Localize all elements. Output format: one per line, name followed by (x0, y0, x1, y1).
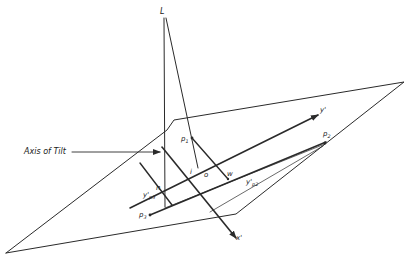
label-p3: p3 (139, 212, 147, 220)
label-y-prime-p3: y'p3 (143, 192, 155, 200)
point-p2 (324, 142, 327, 145)
point-w (227, 178, 229, 180)
point-p1 (191, 137, 194, 140)
tilted-photo-diagram (0, 0, 412, 260)
p1-line (192, 138, 228, 179)
point-p3 (149, 214, 152, 217)
principal-ray (166, 18, 198, 168)
plane-outline (6, 82, 404, 253)
label-x-prime: x' (236, 235, 242, 242)
label-L: L (160, 8, 164, 16)
label-o: o (204, 172, 208, 179)
label-w: w (227, 171, 233, 178)
label-i: i (190, 169, 192, 176)
label-p1: p1 (181, 136, 189, 144)
label-y-prime-p2: y'p2 (246, 179, 258, 187)
y-prime-axis (130, 115, 318, 208)
label-y-prime: y' (320, 107, 326, 114)
label-axis-of-tilt: Axis of Tilt (24, 148, 66, 156)
label-p2: p2 (323, 131, 331, 139)
plumb-line (164, 18, 165, 207)
yp2-line (165, 144, 325, 208)
label-n: n (156, 185, 160, 192)
